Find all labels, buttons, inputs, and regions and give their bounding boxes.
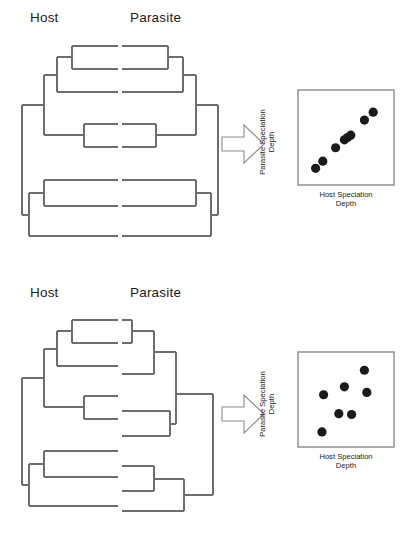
x-axis-label-congruent: Host Speciation Depth: [291, 190, 401, 209]
x-axis-label-line2-2: Depth: [336, 461, 356, 470]
host-tree-header-2: Host: [30, 285, 59, 300]
data-point: [360, 116, 369, 125]
y-axis-label-incongruent: Parasite Speciation Depth: [258, 352, 276, 456]
host-phylogeny-congruent: [14, 40, 122, 252]
parasite-tree-header: Parasite: [130, 10, 181, 25]
data-point: [319, 390, 328, 399]
parasite-phylogeny-congruent: [118, 40, 226, 252]
y-axis-label-line2: Depth: [267, 132, 276, 152]
data-point: [362, 388, 371, 397]
data-point: [346, 131, 355, 140]
y-axis-label-congruent: Parasite Speciation Depth: [258, 90, 276, 194]
y-axis-label-line1-2: Parasite Speciation: [258, 371, 267, 436]
data-point: [331, 143, 340, 152]
data-point: [347, 410, 356, 419]
x-axis-label-line1: Host Speciation: [319, 190, 372, 199]
host-tree-header: Host: [30, 10, 59, 25]
x-axis-label-line1-2: Host Speciation: [319, 452, 372, 461]
data-point: [369, 108, 378, 117]
y-axis-label-line1: Parasite Speciation: [258, 109, 267, 174]
panel-incongruent: Host Parasite: [0, 272, 415, 534]
scatter-plot-incongruent: [297, 351, 395, 448]
data-point: [317, 427, 326, 436]
data-point: [311, 164, 320, 173]
data-point: [318, 157, 327, 166]
parasite-tree-header-2: Parasite: [130, 285, 181, 300]
scatter-plot-congruent: [297, 89, 395, 186]
panel-congruent: Host Parasite: [0, 0, 415, 270]
x-axis-label-incongruent: Host Speciation Depth: [291, 452, 401, 471]
data-point: [334, 409, 343, 418]
host-phylogeny-incongruent: [14, 314, 122, 522]
x-axis-label-line2: Depth: [336, 199, 356, 208]
data-point: [340, 382, 349, 391]
y-axis-label-line2-2: Depth: [267, 394, 276, 414]
plot-frame-2: [298, 352, 394, 447]
parasite-phylogeny-incongruent: [118, 314, 228, 522]
data-point: [360, 366, 369, 375]
